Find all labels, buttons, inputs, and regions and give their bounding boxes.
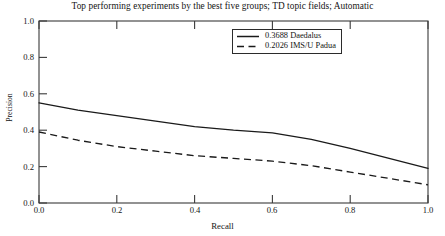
precision-recall-chart: Top performing experiments by the best f… (0, 0, 445, 236)
plot-canvas (0, 0, 445, 236)
x-axis-label: Recall (0, 221, 445, 231)
ytick-label-02: 0.2 (5, 162, 34, 172)
legend-dashed-line-icon (236, 42, 260, 51)
xtick-label-0: 0.0 (25, 205, 53, 215)
series-line-ims-u-padua (39, 132, 428, 185)
y-axis-label: Precision (5, 78, 14, 138)
ytick-label-1: 1.0 (5, 16, 34, 26)
xtick-label-04: 0.4 (181, 205, 209, 215)
xtick-label-02: 0.2 (103, 205, 131, 215)
xtick-label-06: 0.6 (258, 205, 286, 215)
xtick-label-1: 1.0 (414, 205, 442, 215)
y-axis-ticks (39, 21, 47, 203)
legend-label-ims-u-padua: 0.2026 IMS/U Padua (265, 41, 336, 51)
xtick-label-08: 0.8 (336, 205, 364, 215)
legend-label-daedalus: 0.3688 Daedalus (265, 31, 321, 41)
legend-item-daedalus: 0.3688 Daedalus (236, 31, 336, 41)
chart-legend: 0.3688 Daedalus 0.2026 IMS/U Padua (232, 29, 342, 54)
ytick-label-08: 0.8 (5, 52, 34, 62)
legend-solid-line-icon (236, 32, 260, 41)
legend-item-ims-u-padua: 0.2026 IMS/U Padua (236, 41, 336, 51)
